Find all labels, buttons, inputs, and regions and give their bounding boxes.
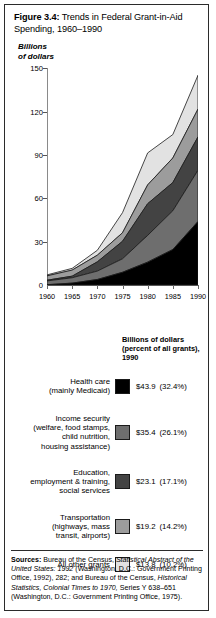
legend-color-swatch [115,379,130,394]
legend-header: Billions of dollars (percent of all gran… [122,335,206,362]
y-tick-mark [43,242,47,243]
y-tick-label: 30 [19,238,43,247]
legend-item-value: $23.1(17.1%) [130,477,187,486]
y-tick-mark [43,112,47,113]
legend-color-swatch [115,425,130,440]
title-line-1: Figure 3.4: Trends in Federal Grant-in-A… [14,12,200,24]
y-tick-mark [43,198,47,199]
sources-note: Sources: Bureau of the Census, Statistic… [11,556,204,602]
legend-item: Transportation(highways, masstransit, ai… [11,513,206,541]
x-tick-label: 1990 [185,292,211,301]
y-tick-label: 120 [19,108,43,117]
legend-amount: $35.4 [136,428,156,437]
x-tick-mark [72,285,73,289]
x-tick-label: 1970 [84,292,110,301]
y-tick-label: 60 [19,194,43,203]
legend-percent: (17.1%) [156,477,187,486]
title-line-2: Spending, 1960–1990 [14,24,200,36]
y-axis-title: Billions of dollars [18,42,54,61]
legend-color-swatch [115,474,130,489]
y-tick-label: 0 [19,281,43,290]
y-tick-label: 90 [19,151,43,160]
legend-item: Education,employment & training,social s… [11,468,206,496]
legend-item-label: Income security(welfare, food stamps,chi… [11,414,115,451]
figure-title: Figure 3.4: Trends in Federal Grant-in-A… [5,5,208,35]
y-tick-label: 150 [19,64,43,73]
legend-amount: $23.1 [136,477,156,486]
sources-divider [11,550,203,551]
x-tick-mark [198,285,199,289]
y-tick-mark [43,155,47,156]
legend-percent: (14.2%) [156,522,187,531]
x-tick-label: 1965 [59,292,85,301]
legend-item-label: Education,employment & training,social s… [11,468,115,496]
legend-item: Health care(mainly Medicaid)$43.9(32.4%) [11,377,206,395]
y-tick-mark [43,68,47,69]
sources-label: Sources: [11,556,41,564]
legend-item-value: $43.9(32.4%) [130,382,187,391]
x-tick-mark [148,285,149,289]
area-chart-svg [47,68,198,285]
legend-amount: $43.9 [136,382,156,391]
x-tick-mark [47,285,48,289]
legend-item-value: $35.4(26.1%) [130,428,187,437]
x-tick-label: 1985 [160,292,186,301]
legend-percent: (26.1%) [156,428,187,437]
sources-part-1: Bureau of the Census, [41,556,116,564]
title-text-part: Trends in Federal Grant-in-Aid [59,12,182,22]
legend-amount: $19.2 [136,522,156,531]
stacked-area-plot [47,68,198,285]
x-tick-mark [123,285,124,289]
figure-card: Figure 3.4: Trends in Federal Grant-in-A… [4,4,209,611]
legend-item-label: Transportation(highways, masstransit, ai… [11,513,115,541]
legend-item-label: Health care(mainly Medicaid) [11,377,115,395]
x-tick-label: 1960 [34,292,60,301]
legend-item: Income security(welfare, food stamps,chi… [11,414,206,451]
legend-item-value: $19.2(14.2%) [130,522,187,531]
x-tick-mark [173,285,174,289]
figure-number: Figure 3.4: [14,12,59,22]
x-tick-mark [97,285,98,289]
legend-percent: (32.4%) [156,382,187,391]
chart-region: Billions of dollars 03060901201501960196… [5,42,208,337]
x-tick-label: 1980 [135,292,161,301]
plot-wrapper: 0306090120150196019651970197519801985199… [16,68,202,301]
legend-color-swatch [115,519,130,534]
x-tick-label: 1975 [110,292,136,301]
